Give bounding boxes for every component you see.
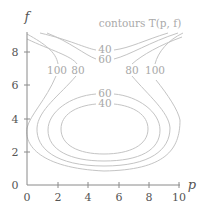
y-tick-label: 8 <box>12 46 19 59</box>
x-tick-label: 8 <box>146 191 153 204</box>
contour-40-bottom <box>61 104 148 154</box>
contour-label: 60 <box>98 53 111 65</box>
y-tick-label: 6 <box>12 79 19 92</box>
contour-label: 100 <box>47 64 67 76</box>
x-tick-label: 2 <box>55 191 62 204</box>
contour-label: 80 <box>71 64 84 76</box>
contour-label: 100 <box>145 64 165 76</box>
y-tick-label: 2 <box>12 146 19 159</box>
x-tick-label: 6 <box>116 191 123 204</box>
chart-title: contours T(p, f) <box>99 17 182 29</box>
x-axis-label: p <box>188 177 197 192</box>
x-tick-label: 0 <box>24 191 31 204</box>
contour-label: 80 <box>125 64 138 76</box>
y-axis-label: f <box>24 9 32 24</box>
contour-plot: 40 60 100 80 80 100 60 40 contours T(p, … <box>0 0 206 219</box>
x-tick-label: 10 <box>172 191 186 204</box>
x-tick-label: 4 <box>85 191 92 204</box>
contour-label: 40 <box>98 97 111 109</box>
y-tick-label: 0 <box>12 179 19 192</box>
y-tick-label: 4 <box>12 113 19 126</box>
